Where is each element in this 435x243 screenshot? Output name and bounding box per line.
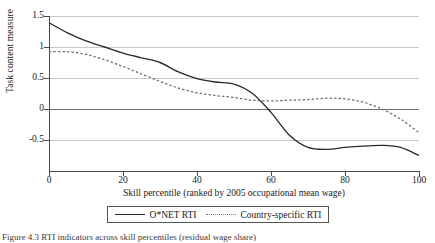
legend-swatch-solid-icon — [115, 214, 145, 215]
series-layer — [49, 16, 419, 171]
x-tick-label-20: 20 — [103, 175, 143, 185]
x-axis-title: Skill percentile (ranked by 2005 occupat… — [49, 188, 419, 198]
x-tick-label-0: 0 — [29, 175, 69, 185]
x-tick-label-40: 40 — [177, 175, 217, 185]
legend-entry-onet-rti[interactable]: O*NET RTI — [115, 210, 197, 220]
x-tick-label-100: 100 — [399, 175, 435, 185]
legend-label-onet-rti: O*NET RTI — [150, 210, 197, 220]
legend-label-country-specific-rti: Country-specific RTI — [241, 210, 322, 220]
legend-entry-country-specific-rti[interactable]: Country-specific RTI — [206, 210, 322, 220]
x-tick-label-80: 80 — [325, 175, 365, 185]
y-tick-label-wrap-4: -0.5 — [0, 135, 44, 145]
x-axis-line — [49, 171, 419, 172]
series-line-country-specific-rti — [49, 52, 419, 133]
y-axis-title: Task content measure — [5, 0, 15, 106]
legend: O*NET RTI Country-specific RTI — [107, 206, 329, 223]
x-tick-label-60: 60 — [251, 175, 291, 185]
series-line-onet-rti — [49, 23, 419, 156]
y-tick-label--0.5: -0.5 — [4, 135, 44, 145]
figure-caption: Figure 4.3 RTI indicators across skill p… — [2, 232, 432, 243]
legend-swatch-dotted-icon — [206, 214, 236, 215]
